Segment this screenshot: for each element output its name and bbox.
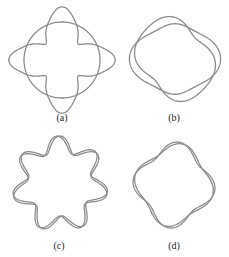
panel-b-label: (b): [168, 112, 180, 123]
figure-canvas: [0, 0, 229, 257]
curve-2: [129, 24, 220, 95]
panel-a-curves: [9, 7, 115, 113]
lobed-curve: [9, 7, 115, 113]
panel-d-curves: [133, 142, 215, 228]
panel-a-label: (a): [56, 112, 67, 123]
panel-c-label: (c): [53, 240, 64, 251]
base-circle: [24, 22, 100, 98]
curve-1: [135, 17, 216, 102]
panel-b-curves: [129, 17, 220, 102]
panel-c-curves: [13, 136, 107, 229]
curve-2: [133, 142, 215, 228]
panel-d-label: (d): [168, 240, 180, 251]
braid-strand-2: [14, 136, 108, 229]
curve-1: [135, 144, 214, 227]
